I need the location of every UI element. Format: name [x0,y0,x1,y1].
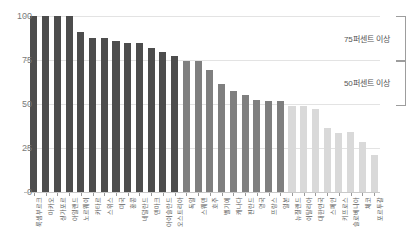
y-axis-tick-mark [24,192,28,193]
bar [312,109,319,192]
x-axis-tick-mark [175,193,176,196]
bar [300,106,307,192]
x-axis-tick-label: 네덜란드 [142,197,149,221]
bar [171,56,178,192]
x-axis-tick-mark [374,193,375,196]
bar [136,43,143,192]
bar [277,101,284,192]
y-axis-tick-mark [24,60,28,61]
bar [195,61,202,192]
bar [101,38,108,192]
x-axis-tick-mark [362,193,363,196]
x-axis-tick-label: 싱가포르 [60,197,67,221]
bar-series [28,16,380,192]
x-axis-tick-mark [81,193,82,196]
x-axis-tick-label: 홍콩 [130,197,137,209]
bar [335,133,342,192]
plot-area [28,16,380,192]
x-axis-tick-label: 핀란드 [248,197,255,215]
x-axis-tick-mark [116,193,117,196]
y-axis-tick-mark [24,148,28,149]
annotation-label-upper: 75퍼센트 이상 [344,33,390,44]
x-axis-tick-label: 노르웨이 [83,197,90,221]
x-axis-tick-label: 덴마크 [154,197,161,215]
bar [183,61,190,192]
x-axis-tick-mark [139,193,140,196]
x-axis-tick-label: 슬로베니아 [353,197,360,227]
x-axis-tick-label: 프랑스 [271,197,278,215]
x-axis-tick-mark [257,193,258,196]
bar [42,16,49,192]
x-axis-tick-mark [269,193,270,196]
x-axis-tick-label: 일본 [283,197,290,209]
x-axis-tick-mark [245,193,246,196]
x-axis-tick-mark [57,193,58,196]
x-axis-tick-label: 아일랜드 [72,197,79,221]
bar [159,52,166,192]
y-axis-tick-mark [24,16,28,17]
x-axis-tick-label: 미국 [119,197,126,209]
bar [265,101,272,192]
x-axis-tick-mark [210,193,211,196]
x-axis-tick-mark [128,193,129,196]
bar [206,70,213,192]
x-axis-tick-mark [351,193,352,196]
bar [77,32,84,192]
chart-title [0,0,415,5]
x-axis-tick-label: 호주 [212,197,219,209]
bar [54,16,61,192]
x-axis-tick-mark [222,193,223,196]
x-axis-tick-mark [292,193,293,196]
bar [230,91,237,192]
x-axis-tick-mark [46,193,47,196]
x-axis-tick-label: 키프로스 [342,197,349,221]
x-axis-tick-mark [93,193,94,196]
x-axis-tick-label: 캐나다 [236,197,243,215]
bar [359,142,366,192]
bar [253,100,260,192]
x-axis-tick-label: 체코 [365,197,372,209]
annotation-bracket [396,16,406,62]
x-axis-tick-mark [69,193,70,196]
x-axis-tick-label: 마카오 [48,197,55,215]
y-axis-tick-label: 0 [8,188,32,197]
bar [124,43,131,192]
x-axis-tick-mark [186,193,187,196]
x-axis-tick-mark [34,193,35,196]
y-axis-tick-label: 100 [8,12,32,21]
bar [242,95,249,192]
x-axis-tick-mark [304,193,305,196]
x-axis-tick-mark [104,193,105,196]
bar [288,106,295,192]
x-axis-tick-label: 아이슬란드 [166,197,173,227]
x-axis-tick-label: 스위스 [107,197,114,215]
x-axis-tick-mark [151,193,152,196]
annotation-label-lower: 50퍼센트 이상 [344,77,390,88]
annotation-bracket [396,60,406,106]
y-axis-tick-mark [24,104,28,105]
x-axis-tick-label: 독일 [189,197,196,209]
bar [218,84,225,192]
x-axis-tick-mark [280,193,281,196]
x-axis-tick-mark [315,193,316,196]
bar [112,41,119,192]
x-axis-tick-label: 오스트리아 [177,197,184,227]
x-axis-tick-label: 영국 [259,197,266,209]
bar [371,155,378,192]
x-axis-tick-mark [198,193,199,196]
x-axis-tick-label: 이탈리아 [306,197,313,221]
x-axis-tick-label: 포르투갈 [377,197,384,221]
x-axis-tick-mark [327,193,328,196]
bar [324,128,331,192]
x-axis-tick-mark [163,193,164,196]
bar [148,48,155,192]
x-axis-tick-mark [339,193,340,196]
x-axis-tick-label: 대한민국 [318,197,325,221]
bar [89,38,96,192]
y-axis-tick-label: 25 [8,144,32,153]
x-axis-tick-label: 뉴질랜드 [295,197,302,221]
y-axis-tick-label: 75 [8,56,32,65]
x-axis-tick-label: 벨기에 [224,197,231,215]
x-axis-tick-label: 카타르 [95,197,102,215]
x-axis-tick-mark [233,193,234,196]
